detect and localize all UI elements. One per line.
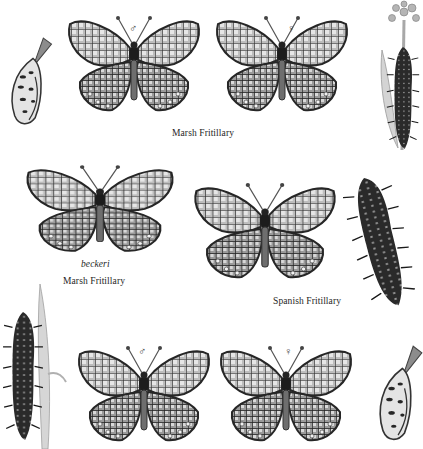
female-symbol: ♀ [287,23,295,34]
pupa-bottom-right [370,344,423,444]
caption-spanish-fritillary: Spanish Fritillary [273,296,341,306]
butterfly-spanish-fritillary [190,175,340,285]
male-symbol: ♂ [138,346,146,357]
larva-on-plant-top-right [386,44,420,152]
caption-beckeri: beckeri [81,259,110,269]
butterfly-marsh-female-top [212,8,352,118]
larva-bottom-left [2,308,44,444]
female-symbol: ♀ [284,346,292,357]
caption-marsh-fritillary-top: Marsh Fritillary [172,128,234,138]
larva-mid-right [352,172,408,312]
butterfly-marsh-beckeri [22,158,178,258]
male-symbol: ♂ [129,23,137,34]
caption-marsh-fritillary-mid: Marsh Fritillary [63,276,125,286]
pupa-top-left [2,36,54,128]
